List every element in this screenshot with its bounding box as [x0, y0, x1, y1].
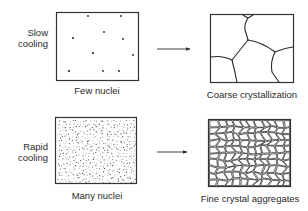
grain-boundaries: [209, 120, 290, 186]
many-nuclei-panel: [56, 118, 137, 184]
nuclei-dots: [68, 15, 134, 72]
nuclei-dots: [57, 120, 135, 184]
coarse-crystallization-panel: [211, 15, 294, 83]
crystallization-diagram: [0, 0, 308, 211]
grain-boundaries: [211, 15, 293, 82]
fine-crystal-aggregates-panel: [209, 120, 291, 187]
few-nuclei-panel: [57, 13, 139, 81]
